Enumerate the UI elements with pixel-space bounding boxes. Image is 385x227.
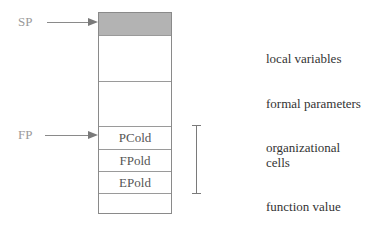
fp-label: FP	[18, 128, 32, 142]
stack-cell-function-value	[99, 193, 171, 213]
stack-cell-formal-parameters	[99, 81, 171, 126]
stack-cell-pcold: PCold	[99, 126, 171, 149]
stack-cell-epold: EPold	[99, 171, 171, 193]
sp-label: SP	[18, 15, 32, 29]
sp-arrow-line	[47, 22, 89, 23]
label-local-variables: local variables	[266, 51, 341, 66]
fp-arrow-line	[45, 135, 89, 136]
stack-frame-diagram: SP FP PCold FPold EPold local variables …	[0, 0, 385, 227]
stack-cell-local-variables	[99, 35, 171, 81]
label-function-value: function value	[266, 199, 341, 214]
stack-cell-fpold: FPold	[99, 149, 171, 171]
label-organizational-line2: cells	[266, 155, 290, 170]
organizational-cells-bracket	[196, 125, 197, 193]
stack-frame: PCold FPold EPold	[98, 12, 172, 214]
label-formal-parameters: formal parameters	[266, 96, 361, 111]
label-organizational-line1: organizational	[266, 140, 340, 155]
sp-arrow-head-icon	[88, 18, 98, 26]
fp-arrow-head-icon	[88, 131, 98, 139]
stack-cell-top	[99, 13, 171, 35]
bracket-bottom-cap	[192, 193, 201, 194]
